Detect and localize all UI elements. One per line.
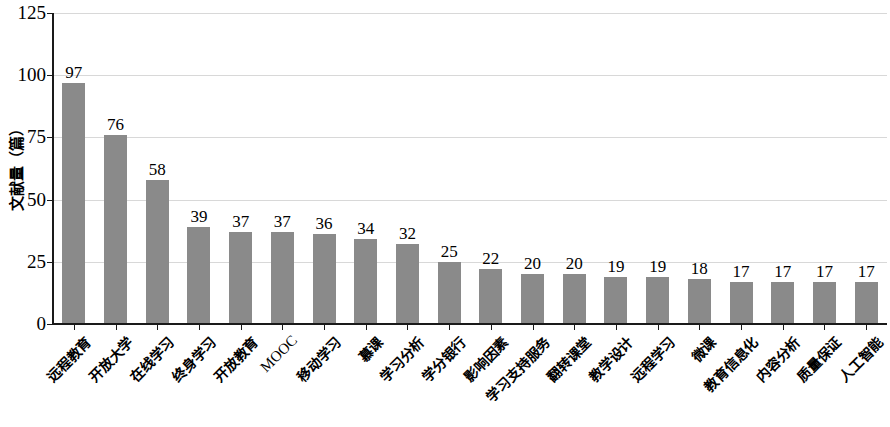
gridline — [53, 200, 887, 201]
bar-value-label: 76 — [96, 116, 136, 133]
x-axis-tick-mark — [282, 325, 283, 330]
x-axis-category-label: 学分银行 — [417, 332, 471, 386]
x-axis-tick-mark — [533, 325, 534, 330]
x-axis-tick-mark — [241, 325, 242, 330]
x-axis-line — [52, 323, 887, 325]
bar[interactable] — [229, 232, 252, 324]
bar[interactable] — [354, 239, 377, 324]
x-axis-tick-mark — [783, 325, 784, 330]
bar[interactable] — [771, 282, 794, 324]
y-axis-tick-label: 0 — [0, 314, 46, 333]
x-axis-tick-mark — [157, 325, 158, 330]
bar[interactable] — [396, 244, 419, 324]
bar-value-label: 97 — [54, 64, 94, 81]
x-axis-category-label: 开放大学 — [83, 332, 137, 386]
y-axis-tick-label: 50 — [0, 190, 46, 209]
x-axis-category-label: 移动学习 — [291, 332, 345, 386]
bar-value-label: 22 — [471, 250, 511, 267]
x-axis-category-label: 终身学习 — [166, 332, 220, 386]
bar-value-label: 17 — [763, 263, 803, 280]
x-axis-category-label: 翻转课堂 — [542, 332, 596, 386]
bar[interactable] — [271, 232, 294, 324]
x-axis-category-label: 学习分析 — [375, 332, 429, 386]
bar-value-label: 17 — [721, 263, 761, 280]
x-axis-category-label: 慕课 — [353, 332, 387, 366]
bar-value-label: 20 — [513, 255, 553, 272]
x-axis-tick-mark — [199, 325, 200, 330]
bar-value-label: 18 — [679, 260, 719, 277]
bar-value-label: 19 — [596, 258, 636, 275]
bar-value-label: 17 — [804, 263, 844, 280]
bar-value-label: 36 — [304, 215, 344, 232]
x-axis-tick-mark — [658, 325, 659, 330]
x-axis-tick-mark — [491, 325, 492, 330]
bar[interactable] — [646, 277, 669, 324]
bar-value-label: 34 — [346, 220, 386, 237]
x-axis-category-label: 内容分析 — [750, 332, 804, 386]
y-axis-tick-labels: 0255075100125 — [0, 0, 46, 427]
bar-value-label: 19 — [638, 258, 678, 275]
x-axis-tick-mark — [699, 325, 700, 330]
x-axis-category-label: 人工智能 — [834, 332, 888, 386]
x-axis-tick-mark — [366, 325, 367, 330]
x-axis-tick-mark — [116, 325, 117, 330]
bar[interactable] — [313, 234, 336, 324]
bar-value-label: 20 — [554, 255, 594, 272]
x-axis-tick-mark — [574, 325, 575, 330]
y-axis-line — [52, 13, 54, 325]
bar[interactable] — [521, 274, 544, 324]
bar-chart: 文献量（篇） 0255075100125 9776583937373634322… — [0, 0, 890, 427]
bar[interactable] — [104, 135, 127, 324]
x-axis-category-label: 开放教育 — [208, 332, 262, 386]
bar[interactable] — [604, 277, 627, 324]
bar-value-label: 58 — [137, 161, 177, 178]
bar[interactable] — [438, 262, 461, 324]
gridline — [53, 75, 887, 76]
bar-value-label: 39 — [179, 208, 219, 225]
plot-area: 9776583937373634322522202019191817171717 — [53, 13, 887, 324]
x-axis-category-label: 微课 — [687, 332, 721, 366]
bar-value-label: 37 — [221, 213, 261, 230]
x-axis-category-label: 教学设计 — [583, 332, 637, 386]
x-axis-tick-mark — [449, 325, 450, 330]
bar[interactable] — [62, 83, 85, 324]
x-axis-tick-mark — [324, 325, 325, 330]
x-axis-category-label: 质量保证 — [792, 332, 846, 386]
y-axis-tick-label: 25 — [0, 252, 46, 271]
y-axis-tick-label: 75 — [0, 127, 46, 146]
gridline — [53, 13, 887, 14]
bar[interactable] — [688, 279, 711, 324]
x-axis-tick-mark — [824, 325, 825, 330]
bar-value-label: 17 — [846, 263, 886, 280]
bar-value-label: 32 — [387, 225, 427, 242]
bar[interactable] — [563, 274, 586, 324]
bar-value-label: 25 — [429, 243, 469, 260]
bar[interactable] — [813, 282, 836, 324]
bar[interactable] — [730, 282, 753, 324]
y-axis-tick-label: 100 — [0, 65, 46, 84]
bar[interactable] — [187, 227, 210, 324]
x-axis-category-label: 在线学习 — [125, 332, 179, 386]
x-axis-tick-mark — [407, 325, 408, 330]
x-axis-tick-mark — [616, 325, 617, 330]
bar[interactable] — [855, 282, 878, 324]
y-axis-tick-label: 125 — [0, 3, 46, 22]
x-axis-tick-mark — [741, 325, 742, 330]
gridline — [53, 137, 887, 138]
x-axis-tick-mark — [866, 325, 867, 330]
bar[interactable] — [146, 180, 169, 324]
x-axis-category-label: 远程教育 — [41, 332, 95, 386]
bar[interactable] — [479, 269, 502, 324]
x-axis-category-label: 远程学习 — [625, 332, 679, 386]
x-axis-tick-mark — [74, 325, 75, 330]
bar-value-label: 37 — [262, 213, 302, 230]
